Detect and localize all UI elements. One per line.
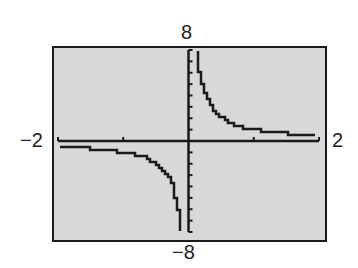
curve-right-branch [198, 51, 315, 135]
graph-plot [0, 0, 358, 268]
curve-left-branch [60, 147, 180, 231]
